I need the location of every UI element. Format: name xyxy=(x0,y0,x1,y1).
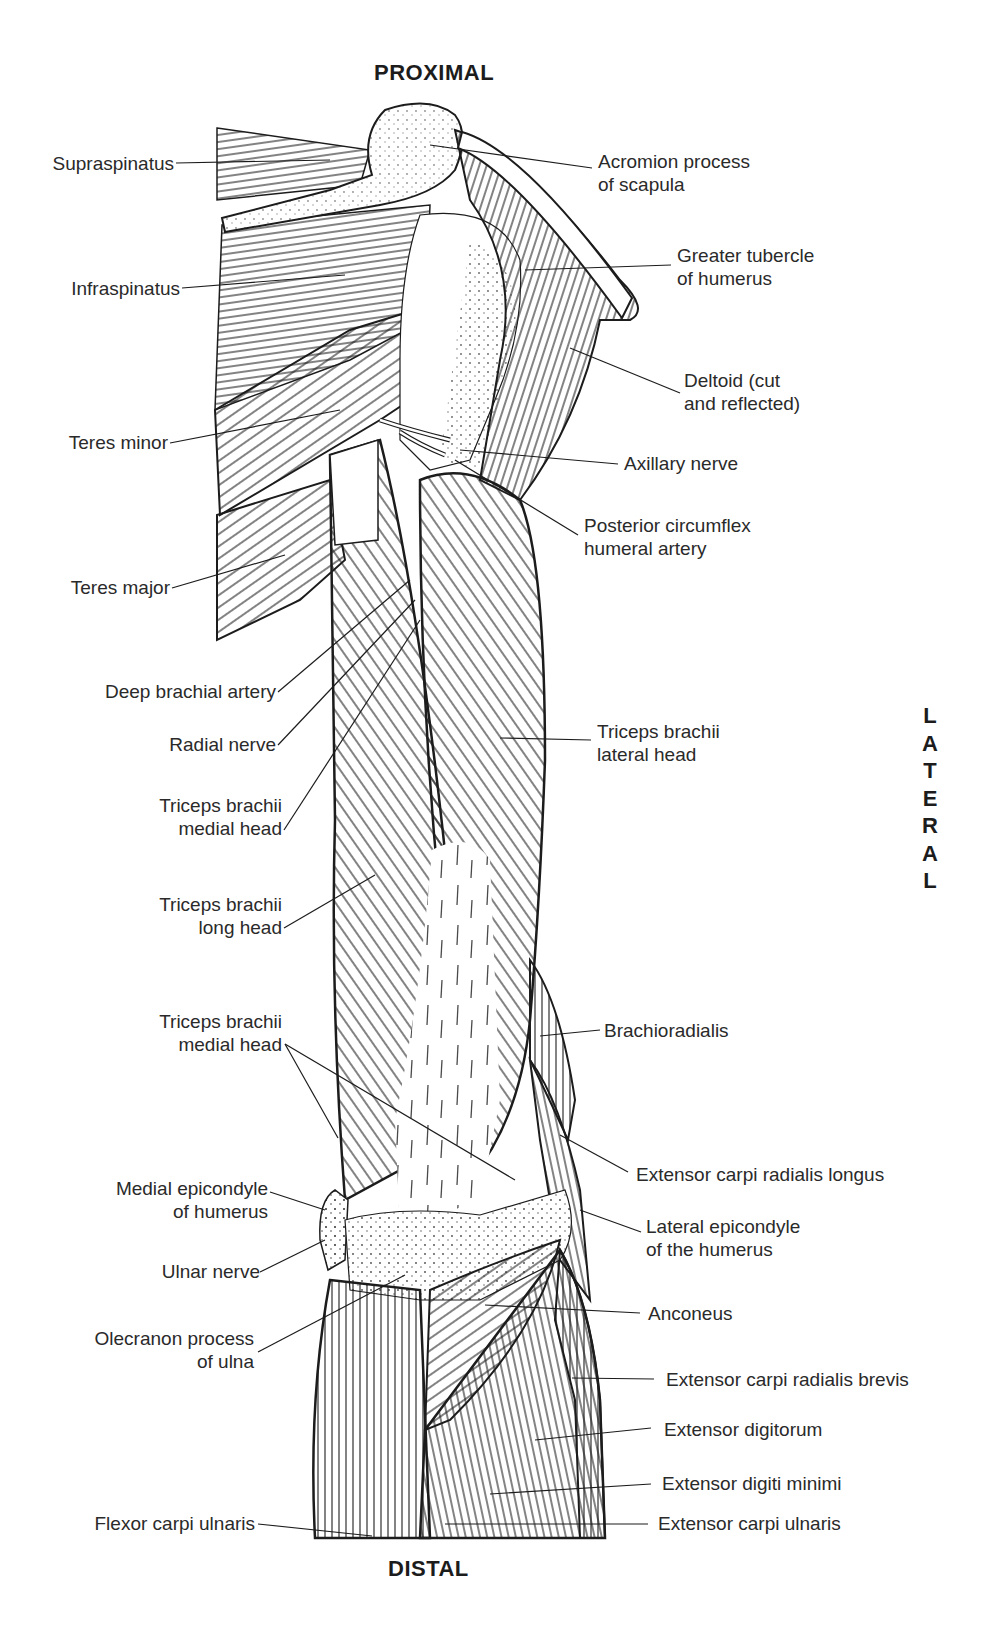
lateral-letter: A xyxy=(918,840,942,868)
label-triceps-medial-head-upper: Triceps brachiimedial head xyxy=(159,794,282,840)
label-extensor-digiti-minimi: Extensor digiti minimi xyxy=(662,1472,842,1495)
label-medial-epicondyle: Medial epicondyleof humerus xyxy=(116,1177,268,1223)
label-anconeus: Anconeus xyxy=(648,1302,733,1325)
label-radial-nerve: Radial nerve xyxy=(169,733,276,756)
label-brachioradialis: Brachioradialis xyxy=(604,1019,729,1042)
posterior-arm-illustration xyxy=(0,0,984,1651)
lateral-letter: E xyxy=(918,785,942,813)
label-triceps-medial-head-lower: Triceps brachiimedial head xyxy=(159,1010,282,1056)
label-axillary-nerve: Axillary nerve xyxy=(624,452,738,475)
label-ecu: Extensor carpi ulnaris xyxy=(658,1512,841,1535)
flexor-carpi-ulnaris-muscle xyxy=(313,1280,430,1538)
label-infraspinatus: Infraspinatus xyxy=(71,277,180,300)
label-deep-brachial-artery: Deep brachial artery xyxy=(105,680,276,703)
orientation-proximal: PROXIMAL xyxy=(374,60,494,86)
label-triceps-long-head: Triceps brachiilong head xyxy=(159,893,282,939)
lateral-letter: L xyxy=(918,867,942,895)
label-extensor-digitorum: Extensor digitorum xyxy=(664,1418,822,1441)
label-ecrl: Extensor carpi radialis longus xyxy=(636,1163,884,1186)
orientation-lateral: L A T E R A L xyxy=(918,702,942,895)
orientation-distal: DISTAL xyxy=(388,1556,469,1582)
label-ecrb: Extensor carpi radialis brevis xyxy=(666,1368,909,1391)
lateral-letter: T xyxy=(918,757,942,785)
label-flexor-carpi-ulnaris: Flexor carpi ulnaris xyxy=(95,1512,256,1535)
label-supraspinatus: Supraspinatus xyxy=(53,152,174,175)
lateral-letter: R xyxy=(918,812,942,840)
label-teres-major: Teres major xyxy=(71,576,170,599)
label-greater-tubercle: Greater tubercleof humerus xyxy=(677,244,814,290)
label-olecranon: Olecranon processof ulna xyxy=(95,1327,254,1373)
label-lateral-epicondyle: Lateral epicondyleof the humerus xyxy=(646,1215,800,1261)
label-acromion: Acromion processof scapula xyxy=(598,150,750,196)
lateral-letter: L xyxy=(918,702,942,730)
label-posterior-circumflex: Posterior circumflexhumeral artery xyxy=(584,514,751,560)
label-triceps-lateral-head: Triceps brachiilateral head xyxy=(597,720,720,766)
label-teres-minor: Teres minor xyxy=(69,431,168,454)
label-ulnar-nerve: Ulnar nerve xyxy=(162,1260,260,1283)
medial-epicondyle-bone xyxy=(320,1190,348,1270)
label-deltoid: Deltoid (cutand reflected) xyxy=(684,369,800,415)
lateral-letter: A xyxy=(918,730,942,758)
